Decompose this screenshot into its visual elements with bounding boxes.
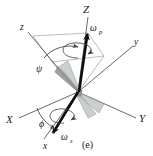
angle-psi-arc (44, 46, 78, 58)
omega-s-label: ω (61, 132, 68, 142)
figure-caption: (e) (82, 139, 93, 151)
omega-p-subscript: p (98, 28, 103, 35)
angle-label-psi: ψ (36, 63, 43, 74)
axis-group (19, 17, 136, 139)
axis-label-Z: Z (83, 3, 90, 15)
omega-p-vector (79, 34, 87, 92)
axis-label-Y: Y (139, 112, 147, 124)
precession-rotation-arrow (63, 43, 91, 58)
axis-label-x: x (42, 141, 48, 151)
omega-p-label: ω (90, 23, 97, 33)
angle-label-phi: ϕ (39, 118, 44, 129)
omega-s-vector (53, 92, 78, 133)
axis-label-X: X (5, 113, 14, 125)
omega-s-subscript: s (70, 137, 73, 144)
axis-label-z: z (19, 22, 24, 32)
axis-label-y: y (133, 37, 139, 47)
gyroscope-diagram-figure: Z z y Y X x ψ ϕ ω p ω s (e) (0, 0, 153, 156)
diagram-canvas: Z z y Y X x ψ ϕ ω p ω s (e) (0, 0, 153, 156)
axis-y-line (78, 46, 133, 92)
